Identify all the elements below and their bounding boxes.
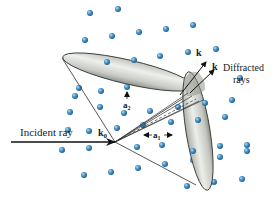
atom xyxy=(147,108,153,114)
atom xyxy=(229,97,235,103)
atom xyxy=(136,29,142,35)
k0-label: k0 xyxy=(98,127,108,140)
atom xyxy=(87,10,93,16)
atom xyxy=(222,114,228,120)
atom xyxy=(162,161,168,167)
atom xyxy=(59,147,65,153)
atom xyxy=(109,33,115,39)
atom xyxy=(217,154,223,160)
crystal-lattice-atoms xyxy=(59,6,250,185)
atom xyxy=(82,37,88,43)
atom xyxy=(97,104,103,110)
atom xyxy=(213,46,219,52)
atom xyxy=(67,109,73,115)
atom xyxy=(134,144,140,150)
diffracted-rays-label-line2: rays xyxy=(233,74,250,85)
atom xyxy=(121,110,127,116)
incident-ray-label: Incident ray xyxy=(20,126,73,138)
a1-label: a1 xyxy=(153,130,161,141)
atom xyxy=(157,53,163,59)
atom xyxy=(131,57,137,63)
atom xyxy=(108,169,114,175)
atom xyxy=(239,176,245,182)
atom xyxy=(81,172,87,178)
a2-label: a2 xyxy=(123,100,131,111)
atom xyxy=(190,22,196,28)
atom xyxy=(115,6,121,12)
atom xyxy=(184,183,190,189)
atom xyxy=(98,88,104,94)
atom xyxy=(104,59,110,65)
atom xyxy=(86,145,92,151)
laue-diffraction-diagram: Incident ray k0 k k Diffracted rays a1 a… xyxy=(0,0,273,212)
atom xyxy=(168,119,174,125)
atom xyxy=(86,128,92,134)
atom xyxy=(159,142,165,148)
atom xyxy=(72,93,78,99)
diffracted-rays-label-line1: Diffracted xyxy=(223,62,264,73)
atom xyxy=(244,142,250,148)
k-lower-label: k xyxy=(212,61,218,72)
atom xyxy=(190,148,196,154)
atom xyxy=(244,148,250,154)
atom xyxy=(135,165,141,171)
atom xyxy=(185,49,191,55)
atom xyxy=(195,117,201,123)
k-upper-label: k xyxy=(196,47,202,58)
atom xyxy=(163,26,169,32)
atom xyxy=(202,100,208,106)
atom xyxy=(114,125,120,131)
diffraction-cone-horizontal xyxy=(60,45,196,142)
atom xyxy=(175,104,181,110)
atom xyxy=(217,143,223,149)
